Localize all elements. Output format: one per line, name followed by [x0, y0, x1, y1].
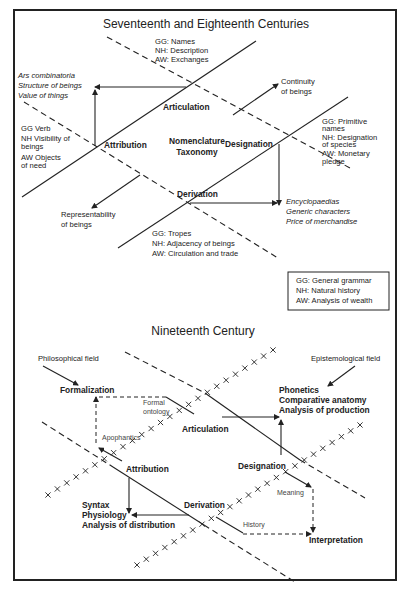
attribution-nh-2: beings [21, 142, 44, 151]
continuity-line-2: of beings [281, 87, 312, 96]
arrow-epistemological [328, 366, 355, 386]
derivation-gg: GG: Tropes [152, 229, 191, 238]
designation-gg-2: names [322, 124, 345, 133]
attribution-label: Attribution [104, 140, 147, 150]
derivation-aw: AW: Circulation and trade [152, 249, 238, 258]
attribution-gg: GG Verb [21, 124, 51, 133]
interpretation-label: Interpretation [309, 535, 363, 545]
top-title: Seventeenth and Eighteenth Centuries [103, 17, 309, 31]
ars-line-3: Value of things [18, 91, 68, 100]
center-taxonomy: Taxonomy [176, 147, 218, 157]
phonetics-line-3: Analysis of production [279, 405, 370, 415]
attribution-aw-2: of need [21, 161, 46, 170]
legend-aw: AW: Analysis of wealth [296, 296, 372, 305]
syntax-line-3: Analysis of distribution [82, 520, 175, 530]
arrow-representability [92, 175, 140, 208]
continuity-line-1: Continuity [281, 77, 315, 86]
formalization: Formalization [60, 385, 114, 395]
ars-line-2: Structure of beings [18, 81, 82, 90]
top-dashed-line-lower [24, 102, 278, 258]
ars-line-1: Ars combinatoria [17, 71, 75, 80]
articulation-aw: AW: Exchanges [155, 55, 209, 64]
encyclo-line-2: Generic characters [286, 207, 350, 216]
representability-line-1: Representability [61, 210, 116, 219]
designation-aw-2: pledge [322, 157, 345, 166]
arrow-meaning [285, 472, 311, 487]
articulation-label: Articulation [163, 102, 210, 112]
legend-gg: GG: General grammar [296, 276, 372, 285]
bottom-dashed-upper-end [300, 460, 365, 498]
encyclo-line-1: Encyclopaedias [286, 197, 339, 206]
history-label: History [243, 521, 265, 529]
top-solid-line-upper [22, 41, 256, 197]
articulation-nh: NH: Description [155, 46, 208, 55]
derivation-label: Derivation [177, 189, 218, 199]
formal-ontology-1: Formal [143, 399, 165, 406]
arrow-philosophical [43, 366, 78, 385]
bottom-dashed-upper-start [125, 352, 205, 393]
designation-label: Designation [225, 139, 273, 149]
syntax-line-2: Physiology [82, 510, 127, 520]
bottom-attribution: Attribution [126, 464, 169, 474]
derivation-nh: NH: Adjacency of beings [152, 239, 235, 248]
encyclo-line-3: Price of merchandise [286, 217, 357, 226]
history-connector [216, 517, 243, 533]
philosophical-field: Philosophical field [38, 354, 99, 363]
legend-nh: NH: Natural history [296, 286, 360, 295]
meaning-label: Meaning [277, 489, 304, 497]
articulation-gg: GG: Names [155, 37, 195, 46]
phonetics-line-2: Comparative anatomy [279, 395, 367, 405]
bottom-derivation: Derivation [184, 500, 225, 510]
syntax-line-1: Syntax [82, 500, 110, 510]
arrow-apophantics [99, 448, 122, 461]
designation-nh-2: of species [322, 140, 356, 149]
center-nomenclature: Nomenclature [169, 136, 225, 146]
apophantics: Apophantics [102, 434, 141, 442]
formal-ontology-2: ontology [143, 408, 170, 416]
bottom-designation: Designation [238, 461, 286, 471]
arrow-continuity [233, 84, 278, 115]
bottom-articulation: Articulation [182, 424, 229, 434]
phonetics-line-1: Phonetics [279, 385, 319, 395]
diagram-canvas: Seventeenth and Eighteenth Centuries GG:… [0, 0, 403, 591]
bottom-title: Nineteenth Century [151, 324, 254, 338]
epistemological-field: Epistemological field [311, 354, 380, 363]
representability-line-2: of beings [61, 220, 92, 229]
